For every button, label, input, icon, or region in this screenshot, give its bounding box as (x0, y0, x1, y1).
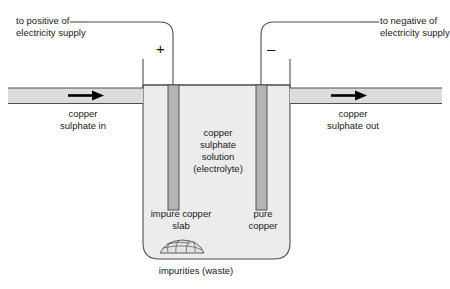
label-anode: impure copper slab (143, 208, 219, 232)
label-negative-supply: to negative of electricity supply (380, 15, 450, 39)
cathode-pure-copper-electrode (256, 85, 267, 210)
diagram-canvas: to positive of electricity supply to neg… (0, 0, 450, 289)
positive-terminal-sign: + (156, 41, 165, 56)
label-inlet: copper sulphate in (38, 108, 128, 132)
anode-impure-copper-electrode (168, 85, 179, 210)
label-impurities: impurities (waste) (131, 265, 261, 277)
negative-lead-wire (261, 22, 361, 59)
label-electrolyte: copper sulphate solution (electrolyte) (183, 127, 253, 175)
label-positive-supply: to positive of electricity supply (16, 15, 88, 39)
label-cathode: pure copper (235, 208, 291, 232)
negative-terminal-sign: – (267, 41, 275, 56)
label-outlet: copper sulphate out (305, 108, 401, 132)
